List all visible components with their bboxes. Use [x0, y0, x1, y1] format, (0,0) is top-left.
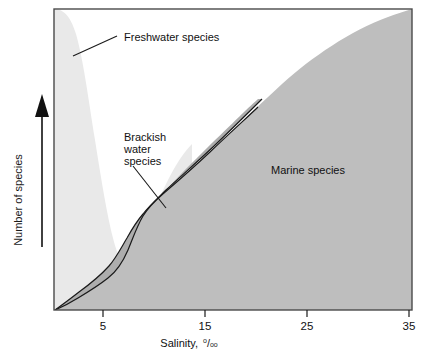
marine-label: Marine species — [271, 164, 345, 176]
freshwater-label: Freshwater species — [124, 31, 220, 43]
brackish-label-line-1: Brackish — [124, 131, 166, 143]
x-axis-label: Salinity, o/oo — [160, 337, 218, 349]
brackish-label-line-3: species — [124, 155, 162, 167]
x-axis-label-text: Salinity, — [160, 337, 198, 349]
permille-denominator: oo — [210, 341, 218, 348]
y-axis-label: Number of species — [12, 154, 24, 246]
x-tick-label-25: 25 — [301, 320, 314, 332]
x-tick-label-35: 35 — [403, 320, 416, 332]
brackish-label-line-2: water — [123, 143, 151, 155]
x-tick-label-5: 5 — [100, 320, 106, 332]
remane-diagram: 5 15 25 35 Salinity, o/oo Number of spec… — [0, 0, 430, 352]
x-tick-label-15: 15 — [199, 320, 212, 332]
